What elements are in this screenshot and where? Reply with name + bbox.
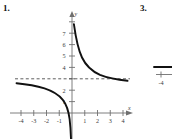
- x-tick-label-neg1: -1: [57, 117, 62, 124]
- y-tick-label-4: 4: [62, 64, 65, 71]
- worksheet-page: 1. 3.: [0, 0, 172, 139]
- x-axis: [10, 110, 133, 115]
- y-tick-label-5: 5: [62, 52, 65, 59]
- x-axis-label: x: [127, 105, 131, 111]
- problem-3-label: 3.: [140, 4, 147, 13]
- figure-1-graph: -4 -3 -2 -1 1 2 3 4 1 2 4 5 6 7 x y: [8, 6, 136, 139]
- curve-right-branch: [74, 24, 128, 81]
- y-tick-label-2: 2: [62, 87, 65, 94]
- x-tick-label-3: 3: [109, 117, 112, 124]
- figure-1-svg: -4 -3 -2 -1 1 2 3 4 1 2 4 5 6 7 x y: [8, 6, 136, 139]
- x-tick-label-4: 4: [121, 117, 124, 124]
- y-tick-label-7: 7: [62, 30, 65, 37]
- figure-3-graph: -4: [152, 6, 172, 139]
- figure-3-svg: -4: [152, 6, 172, 139]
- figure-3-x-tick-label-neg4: -4: [158, 79, 163, 86]
- x-tick-label-1: 1: [83, 117, 86, 124]
- x-tick-label-neg4: -4: [18, 117, 23, 124]
- x-tick-label-2: 2: [96, 117, 99, 124]
- x-tick-label-neg2: -2: [44, 117, 49, 124]
- x-tick-label-neg3: -3: [31, 117, 36, 124]
- y-axis-label: y: [74, 11, 78, 17]
- y-tick-label-6: 6: [62, 41, 65, 48]
